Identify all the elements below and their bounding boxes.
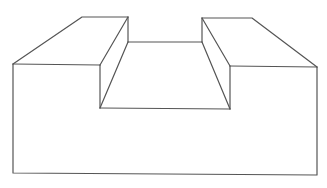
base-front-face	[13, 64, 317, 175]
u-block-drawing	[0, 0, 327, 188]
channel	[100, 42, 230, 109]
left-block	[13, 17, 128, 108]
right-block	[202, 18, 317, 109]
diagram-canvas	[0, 0, 327, 188]
